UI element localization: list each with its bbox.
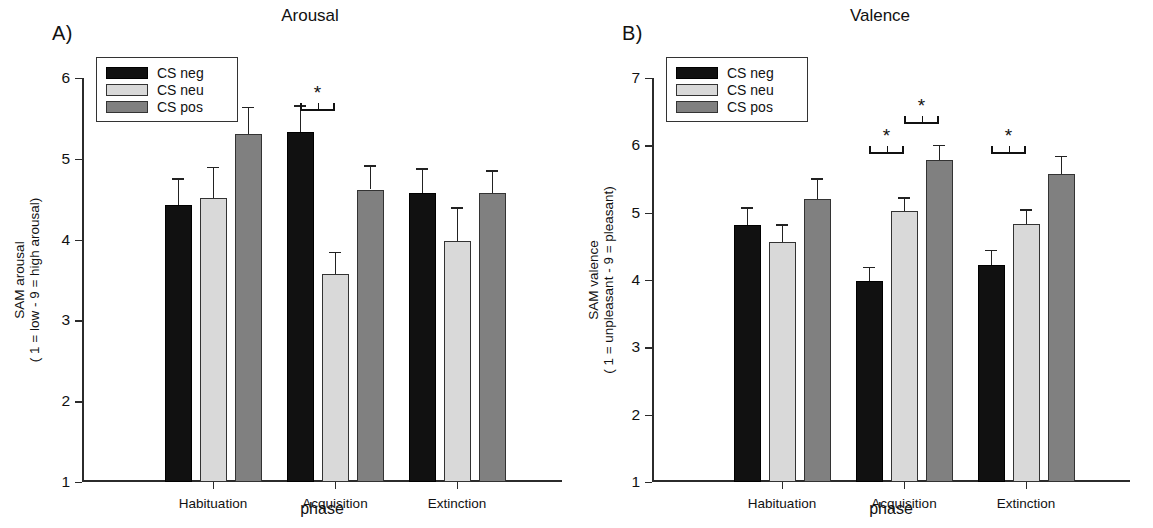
y-tick-label: 1 <box>631 473 640 491</box>
bar-neg-extinction <box>409 193 436 482</box>
panel-a-y-axis <box>82 78 84 482</box>
error-bar-cap <box>364 165 376 166</box>
error-bar <box>457 207 458 241</box>
error-bar <box>869 267 870 282</box>
legend-label-cs-pos: CS pos <box>727 99 773 115</box>
bar-neu-acquisition <box>322 274 349 482</box>
panel-b-y-axis <box>652 78 654 482</box>
error-bar <box>782 224 783 242</box>
error-bar <box>370 165 371 189</box>
bar-neu-extinction <box>1013 224 1040 482</box>
x-tick <box>782 482 783 489</box>
error-bar-cap <box>207 167 219 168</box>
y-tick <box>645 415 652 416</box>
x-tick <box>457 482 458 489</box>
legend-item-cs-neg: CS neg <box>676 64 798 81</box>
significance-star: * <box>314 83 321 102</box>
panel-a-letter: A) <box>52 22 73 45</box>
error-bar-cap <box>242 107 254 108</box>
significance-star: * <box>1005 126 1012 145</box>
bar-neg-acquisition <box>856 281 883 482</box>
y-tick <box>75 482 82 483</box>
y-tick-label: 7 <box>631 69 640 87</box>
error-bar-cap <box>486 170 498 171</box>
legend-label-cs-neu: CS neu <box>157 82 204 98</box>
y-tick <box>75 159 82 160</box>
error-bar-cap <box>776 224 788 225</box>
y-tick <box>645 213 652 214</box>
y-tick-label: 3 <box>631 338 640 356</box>
error-bar <box>939 145 940 160</box>
legend-swatch-cs-neu <box>106 84 148 96</box>
panel-a-x-axis-title: phase <box>82 500 562 518</box>
y-tick <box>645 145 652 146</box>
legend-label-cs-pos: CS pos <box>157 99 203 115</box>
error-bar-cap <box>1055 156 1067 157</box>
panel-a-legend: CS neg CS neu CS pos <box>96 57 238 122</box>
error-bar <box>817 178 818 198</box>
y-tick <box>645 347 652 348</box>
error-bar <box>1026 209 1027 224</box>
error-bar <box>1061 156 1062 174</box>
panel-b-y-axis-label: SAM valence ( 1 = unpleasant - 9 = pleas… <box>586 70 616 490</box>
bar-neu-extinction <box>444 241 471 482</box>
legend-item-cs-neu: CS neu <box>106 81 228 98</box>
y-tick <box>645 78 652 79</box>
legend-label-cs-neu: CS neu <box>727 82 774 98</box>
bar-neu-habituation <box>769 242 796 482</box>
panel-b-y-axis-label-line1: SAM valence <box>586 70 601 490</box>
y-tick-label: 5 <box>61 150 70 168</box>
bar-pos-acquisition <box>926 160 953 482</box>
y-tick-label: 1 <box>61 473 70 491</box>
error-bar-cap <box>1020 209 1032 210</box>
panel-b-letter: B) <box>622 22 643 45</box>
error-bar <box>492 170 493 193</box>
y-tick <box>75 78 82 79</box>
panel-a-y-axis-label-line1: SAM arousal <box>12 70 27 490</box>
error-bar <box>213 167 214 198</box>
error-bar-cap <box>451 207 463 208</box>
panel-b-valence: B) Valence SAM valence ( 1 = unpleasant … <box>580 0 1153 528</box>
legend-label-cs-neg: CS neg <box>727 65 774 81</box>
error-bar-cap <box>329 252 341 253</box>
bar-neg-habituation <box>165 205 192 482</box>
error-bar-cap <box>898 197 910 198</box>
y-tick-label: 6 <box>631 136 640 154</box>
y-tick-label: 2 <box>61 392 70 410</box>
error-bar-cap <box>811 178 823 179</box>
y-tick <box>75 240 82 241</box>
legend-swatch-cs-neu <box>676 84 718 96</box>
panel-b-title: Valence <box>700 6 1060 26</box>
significance-star: * <box>883 126 890 145</box>
panel-b-plot-area: 1234567HabituationAcquisitionExtinction*… <box>652 78 1130 482</box>
panel-a-y-axis-label: SAM arousal ( 1 = low - 9 = high arousal… <box>12 70 42 490</box>
bar-neu-acquisition <box>891 211 918 482</box>
bar-pos-extinction <box>479 193 506 482</box>
error-bar <box>248 107 249 134</box>
legend-item-cs-neu: CS neu <box>676 81 798 98</box>
error-bar-cap <box>172 178 184 179</box>
panel-a-y-axis-label-line2: ( 1 = low - 9 = high arousal) <box>27 70 42 490</box>
legend-swatch-cs-pos <box>676 101 718 113</box>
y-tick-label: 4 <box>61 231 70 249</box>
legend-item-cs-neg: CS neg <box>106 64 228 81</box>
y-tick-label: 6 <box>61 69 70 87</box>
legend-label-cs-neg: CS neg <box>157 65 204 81</box>
y-tick <box>645 482 652 483</box>
error-bar <box>904 197 905 210</box>
x-tick <box>1026 482 1027 489</box>
legend-item-cs-pos: CS pos <box>106 98 228 115</box>
y-tick-label: 2 <box>631 406 640 424</box>
error-bar <box>991 250 992 265</box>
panel-a-arousal: A) Arousal SAM arousal ( 1 = low - 9 = h… <box>0 0 580 528</box>
bar-pos-habituation <box>804 199 831 482</box>
x-tick <box>335 482 336 489</box>
legend-item-cs-pos: CS pos <box>676 98 798 115</box>
error-bar <box>335 252 336 275</box>
panel-a-title: Arousal <box>130 6 490 26</box>
panel-b-legend: CS neg CS neu CS pos <box>666 57 808 122</box>
bar-neg-acquisition <box>287 132 314 482</box>
x-tick <box>904 482 905 489</box>
bar-pos-acquisition <box>357 190 384 482</box>
panel-b-y-axis-label-line2: ( 1 = unpleasant - 9 = pleasant) <box>601 70 616 490</box>
